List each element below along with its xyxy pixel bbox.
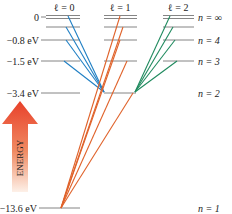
n-label-3: n = 3 xyxy=(198,56,220,67)
energy-arrow: ENERGY xyxy=(2,101,38,192)
column-header-l1: ℓ = 1 xyxy=(110,2,130,13)
energy-axis-label: ENERGY xyxy=(15,139,25,176)
energy-label-n4: −0.8 eV xyxy=(7,35,40,46)
transitions-l1-to-n1 xyxy=(61,16,133,208)
energy-level-diagram: ℓ = 0 ℓ = 1 ℓ = 2 xyxy=(0,0,232,214)
column-header-l2: ℓ = 2 xyxy=(168,2,188,13)
n-label-1: n = 1 xyxy=(198,203,220,214)
energy-label-n1: −13.6 eV xyxy=(0,203,38,214)
energy-label-n3: −1.5 eV xyxy=(7,56,40,67)
n-label-inf: n = ∞ xyxy=(198,12,222,23)
n-label-4: n = 4 xyxy=(198,35,220,46)
n-label-2: n = 2 xyxy=(198,88,220,99)
energy-label-0: 0 xyxy=(34,12,39,23)
n-labels: n = ∞ n = 4 n = 3 n = 2 n = 1 xyxy=(198,12,222,214)
column-header-l0: ℓ = 0 xyxy=(54,2,74,13)
energy-label-n2: −3.4 eV xyxy=(7,88,40,99)
